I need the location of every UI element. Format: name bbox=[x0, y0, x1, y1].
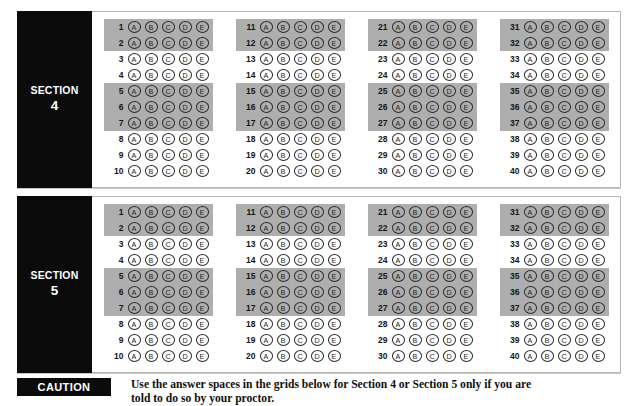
answer-bubble-e[interactable]: E bbox=[328, 286, 341, 298]
answer-bubble-c[interactable]: C bbox=[162, 302, 175, 314]
answer-bubble-b[interactable]: B bbox=[409, 21, 422, 33]
answer-bubble-b[interactable]: B bbox=[409, 286, 422, 298]
answer-bubble-a[interactable]: A bbox=[128, 254, 141, 266]
answer-bubble-c[interactable]: C bbox=[426, 133, 439, 145]
answer-bubble-c[interactable]: C bbox=[162, 69, 175, 81]
answer-bubble-b[interactable]: B bbox=[409, 270, 422, 282]
answer-bubble-d[interactable]: D bbox=[575, 206, 588, 218]
answer-bubble-d[interactable]: D bbox=[179, 206, 192, 218]
answer-bubble-d[interactable]: D bbox=[179, 37, 192, 49]
answer-bubble-a[interactable]: A bbox=[260, 350, 273, 362]
answer-bubble-e[interactable]: E bbox=[592, 206, 605, 218]
answer-bubble-e[interactable]: E bbox=[592, 53, 605, 65]
answer-bubble-a[interactable]: A bbox=[128, 21, 141, 33]
answer-bubble-b[interactable]: B bbox=[145, 117, 158, 129]
answer-bubble-a[interactable]: A bbox=[392, 318, 405, 330]
answer-bubble-c[interactable]: C bbox=[294, 69, 307, 81]
answer-bubble-b[interactable]: B bbox=[145, 350, 158, 362]
answer-bubble-b[interactable]: B bbox=[145, 270, 158, 282]
answer-bubble-c[interactable]: C bbox=[558, 117, 571, 129]
answer-bubble-c[interactable]: C bbox=[162, 286, 175, 298]
answer-bubble-b[interactable]: B bbox=[541, 133, 554, 145]
answer-bubble-b[interactable]: B bbox=[145, 318, 158, 330]
answer-bubble-c[interactable]: C bbox=[162, 149, 175, 161]
answer-bubble-b[interactable]: B bbox=[409, 101, 422, 113]
answer-bubble-c[interactable]: C bbox=[294, 238, 307, 250]
answer-bubble-e[interactable]: E bbox=[196, 69, 209, 81]
answer-bubble-e[interactable]: E bbox=[460, 350, 473, 362]
answer-bubble-a[interactable]: A bbox=[260, 69, 273, 81]
answer-bubble-b[interactable]: B bbox=[277, 302, 290, 314]
answer-bubble-b[interactable]: B bbox=[541, 286, 554, 298]
answer-bubble-a[interactable]: A bbox=[128, 37, 141, 49]
answer-bubble-c[interactable]: C bbox=[558, 206, 571, 218]
answer-bubble-d[interactable]: D bbox=[179, 238, 192, 250]
answer-bubble-a[interactable]: A bbox=[128, 149, 141, 161]
answer-bubble-b[interactable]: B bbox=[145, 254, 158, 266]
answer-bubble-b[interactable]: B bbox=[277, 350, 290, 362]
answer-bubble-e[interactable]: E bbox=[196, 318, 209, 330]
answer-bubble-d[interactable]: D bbox=[179, 350, 192, 362]
answer-bubble-a[interactable]: A bbox=[128, 165, 141, 177]
answer-bubble-b[interactable]: B bbox=[277, 133, 290, 145]
answer-bubble-c[interactable]: C bbox=[426, 350, 439, 362]
answer-bubble-a[interactable]: A bbox=[128, 69, 141, 81]
answer-bubble-b[interactable]: B bbox=[541, 117, 554, 129]
answer-bubble-c[interactable]: C bbox=[558, 286, 571, 298]
answer-bubble-e[interactable]: E bbox=[196, 149, 209, 161]
answer-bubble-c[interactable]: C bbox=[162, 206, 175, 218]
answer-bubble-d[interactable]: D bbox=[311, 238, 324, 250]
answer-bubble-a[interactable]: A bbox=[392, 85, 405, 97]
answer-bubble-a[interactable]: A bbox=[128, 117, 141, 129]
answer-bubble-a[interactable]: A bbox=[392, 350, 405, 362]
answer-bubble-a[interactable]: A bbox=[128, 133, 141, 145]
answer-bubble-e[interactable]: E bbox=[460, 318, 473, 330]
answer-bubble-e[interactable]: E bbox=[196, 222, 209, 234]
answer-bubble-d[interactable]: D bbox=[311, 302, 324, 314]
answer-bubble-d[interactable]: D bbox=[575, 238, 588, 250]
answer-bubble-b[interactable]: B bbox=[541, 165, 554, 177]
answer-bubble-d[interactable]: D bbox=[575, 69, 588, 81]
answer-bubble-e[interactable]: E bbox=[328, 302, 341, 314]
answer-bubble-e[interactable]: E bbox=[328, 117, 341, 129]
answer-bubble-a[interactable]: A bbox=[524, 85, 537, 97]
answer-bubble-b[interactable]: B bbox=[409, 133, 422, 145]
answer-bubble-a[interactable]: A bbox=[524, 149, 537, 161]
answer-bubble-e[interactable]: E bbox=[328, 254, 341, 266]
answer-bubble-e[interactable]: E bbox=[196, 270, 209, 282]
answer-bubble-c[interactable]: C bbox=[294, 222, 307, 234]
answer-bubble-d[interactable]: D bbox=[443, 254, 456, 266]
answer-bubble-b[interactable]: B bbox=[145, 286, 158, 298]
answer-bubble-c[interactable]: C bbox=[162, 318, 175, 330]
answer-bubble-c[interactable]: C bbox=[162, 254, 175, 266]
answer-bubble-e[interactable]: E bbox=[196, 37, 209, 49]
answer-bubble-d[interactable]: D bbox=[575, 53, 588, 65]
answer-bubble-d[interactable]: D bbox=[311, 334, 324, 346]
answer-bubble-e[interactable]: E bbox=[328, 149, 341, 161]
answer-bubble-c[interactable]: C bbox=[294, 149, 307, 161]
answer-bubble-b[interactable]: B bbox=[277, 254, 290, 266]
answer-bubble-c[interactable]: C bbox=[162, 117, 175, 129]
answer-bubble-c[interactable]: C bbox=[426, 85, 439, 97]
answer-bubble-a[interactable]: A bbox=[260, 133, 273, 145]
answer-bubble-c[interactable]: C bbox=[162, 85, 175, 97]
answer-bubble-a[interactable]: A bbox=[392, 69, 405, 81]
answer-bubble-e[interactable]: E bbox=[328, 133, 341, 145]
answer-bubble-e[interactable]: E bbox=[460, 222, 473, 234]
answer-bubble-c[interactable]: C bbox=[426, 21, 439, 33]
answer-bubble-c[interactable]: C bbox=[426, 165, 439, 177]
answer-bubble-a[interactable]: A bbox=[260, 222, 273, 234]
answer-bubble-c[interactable]: C bbox=[294, 37, 307, 49]
answer-bubble-e[interactable]: E bbox=[460, 238, 473, 250]
answer-bubble-a[interactable]: A bbox=[260, 206, 273, 218]
answer-bubble-e[interactable]: E bbox=[592, 133, 605, 145]
answer-bubble-a[interactable]: A bbox=[392, 286, 405, 298]
answer-bubble-c[interactable]: C bbox=[294, 286, 307, 298]
answer-bubble-d[interactable]: D bbox=[443, 318, 456, 330]
answer-bubble-d[interactable]: D bbox=[311, 117, 324, 129]
answer-bubble-e[interactable]: E bbox=[460, 334, 473, 346]
answer-bubble-c[interactable]: C bbox=[294, 133, 307, 145]
answer-bubble-b[interactable]: B bbox=[541, 53, 554, 65]
answer-bubble-e[interactable]: E bbox=[328, 318, 341, 330]
answer-bubble-d[interactable]: D bbox=[311, 254, 324, 266]
